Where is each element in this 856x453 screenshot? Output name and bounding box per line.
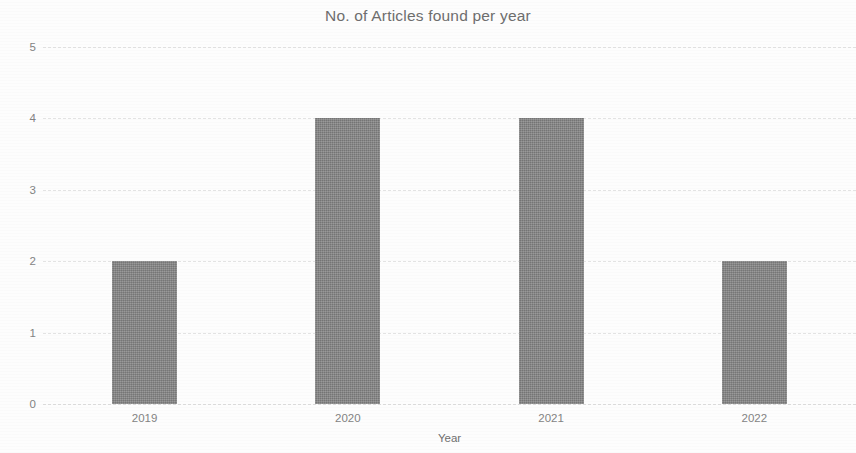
gridline: [43, 190, 856, 191]
gridline: [43, 333, 856, 334]
bar-chart: No. of Articles found per year No. of ar…: [0, 0, 856, 453]
chart-title: No. of Articles found per year: [0, 7, 856, 25]
gridline: [43, 118, 856, 119]
x-axis-tick-labels: 2019202020212022: [43, 412, 856, 430]
gridline: [43, 404, 856, 405]
y-axis-tick-label: 4: [0, 112, 36, 124]
x-axis-tick-label: 2021: [496, 412, 606, 424]
y-axis-tick-label: 0: [0, 398, 36, 410]
plot-area: 012345: [43, 47, 856, 404]
x-axis-title: Year: [43, 432, 856, 444]
y-axis-tick-label: 1: [0, 327, 36, 339]
x-axis-tick-label: 2022: [699, 412, 809, 424]
y-axis-tick-label: 2: [0, 255, 36, 267]
y-axis-tick-label: 5: [0, 41, 36, 53]
gridline: [43, 47, 856, 48]
x-axis-tick-label: 2019: [90, 412, 200, 424]
y-axis-tick-label: 3: [0, 184, 36, 196]
gridline: [43, 261, 856, 262]
x-axis-tick-label: 2020: [293, 412, 403, 424]
